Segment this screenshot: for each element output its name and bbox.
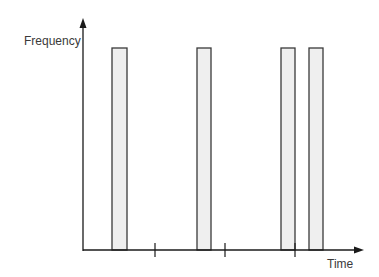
x-axis-arrow-icon (354, 247, 364, 254)
bar-4 (309, 48, 323, 250)
y-axis-label: Frequency (24, 34, 81, 48)
bar-2 (197, 48, 211, 250)
bars (112, 48, 323, 250)
bar-3 (281, 48, 295, 250)
y-axis-arrow-icon (80, 18, 87, 28)
bar-1 (112, 48, 127, 250)
x-axis-label: Time (327, 257, 353, 271)
